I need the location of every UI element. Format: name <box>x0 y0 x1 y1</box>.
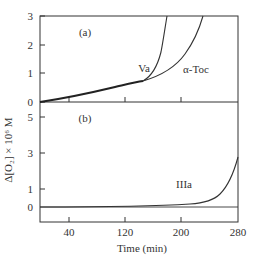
panel-b-label: (b) <box>79 112 92 125</box>
x-tick-280: 280 <box>230 226 247 238</box>
y-ticks-panel-b <box>40 117 45 189</box>
x-tick-120: 120 <box>117 226 134 238</box>
series-iiia-line <box>40 157 238 207</box>
series-shared-lower <box>40 81 143 102</box>
series-iiia-label: IIIa <box>176 178 192 190</box>
chart-figure: 0 1 2 3 0 1 3 5 40 120 200 280 Time (min… <box>0 0 256 259</box>
y-tick-b-5: 5 <box>28 111 34 123</box>
x-axis-title: Time (min) <box>117 242 167 255</box>
y-tick-b-1: 1 <box>28 183 34 195</box>
panel-a-label: (a) <box>79 26 92 39</box>
x-tick-40: 40 <box>64 226 76 238</box>
y-axis-title: Δ[O₂] × 10⁶ M <box>2 117 14 182</box>
x-tick-200: 200 <box>173 226 190 238</box>
y-tick-b-0: 0 <box>28 201 34 213</box>
series-atoc-label: α-Toc <box>183 63 209 75</box>
y-tick-a-1: 1 <box>28 67 34 79</box>
y-tick-a-2: 2 <box>28 39 34 51</box>
y-ticks-panel-a <box>40 16 45 102</box>
y-tick-b-3: 3 <box>28 147 34 159</box>
plot-frame <box>40 16 238 222</box>
series-va-label: Va <box>138 62 150 74</box>
y-tick-a-0: 0 <box>28 96 34 108</box>
y-tick-a-3: 3 <box>28 10 34 22</box>
